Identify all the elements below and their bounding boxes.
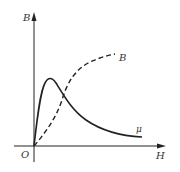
y-axis-arrow-icon bbox=[32, 12, 37, 21]
bh-diagram: B H O B μ bbox=[0, 0, 180, 172]
b-curve bbox=[34, 54, 115, 146]
x-axis-arrow-icon bbox=[157, 144, 166, 149]
b-curve-label: B bbox=[118, 52, 126, 63]
mu-curve-label: μ bbox=[136, 124, 142, 134]
origin-label: O bbox=[21, 149, 29, 160]
y-axis-label: B bbox=[22, 12, 30, 23]
mu-curve bbox=[34, 79, 142, 147]
x-axis-label: H bbox=[155, 150, 165, 161]
